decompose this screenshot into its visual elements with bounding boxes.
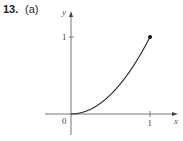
curve-line [71,37,150,114]
endpoint-dot [148,35,152,39]
y-axis-arrow-icon [69,11,73,17]
chart: 1 1 0 y x [0,0,183,141]
x-tick-label-1: 1 [148,118,153,128]
y-axis-label: y [61,7,66,17]
y-tick-label-1: 1 [62,32,67,42]
x-axis-label: x [173,116,178,126]
origin-label: 0 [62,116,67,126]
